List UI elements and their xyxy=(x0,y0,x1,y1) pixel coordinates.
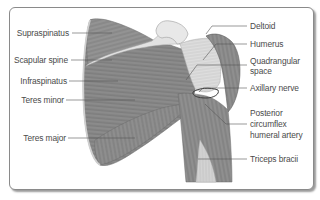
label-quadrangular-space-line2: space xyxy=(250,66,272,76)
label-teres-major: Teres major xyxy=(14,133,66,143)
label-scapular-spine: Scapular spine xyxy=(10,55,68,65)
label-posterior-circumflex-line3: humeral artery xyxy=(250,130,303,140)
label-axillary-nerve: Axillary nerve xyxy=(250,83,299,93)
label-infraspinatus: Infraspinatus xyxy=(14,76,67,86)
label-teres-minor: Teres minor xyxy=(14,95,64,105)
label-posterior-circumflex-line2: circumflex xyxy=(250,119,287,129)
label-triceps-bracii: Triceps bracii xyxy=(250,154,298,164)
label-humerus: Humerus xyxy=(250,39,283,49)
label-quadrangular-space-line1: Quadrangular xyxy=(250,56,300,66)
label-posterior-circumflex-line1: Posterior xyxy=(250,108,283,118)
label-deltoid: Deltoid xyxy=(250,21,275,31)
label-supraspinatus: Supraspinatus xyxy=(14,28,69,38)
